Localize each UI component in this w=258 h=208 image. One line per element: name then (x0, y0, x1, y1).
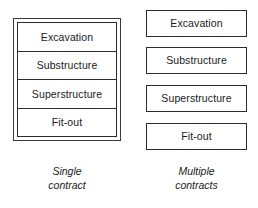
phase-label: Superstructure (32, 89, 102, 100)
phase-label: Fit-out (52, 117, 82, 128)
multiple-contracts-group: Excavation Substructure Superstructure F… (146, 10, 247, 151)
caption-line-1: Multiple (146, 164, 247, 178)
single-contract-caption: Single contract (13, 164, 121, 192)
phase-cell-excavation: Excavation (18, 23, 116, 52)
phase-box-fit-out: Fit-out (146, 123, 247, 150)
caption-line-2: contract (13, 178, 121, 192)
phase-label: Superstructure (161, 93, 231, 104)
phase-label: Excavation (41, 32, 93, 43)
phase-box-substructure: Substructure (146, 47, 247, 74)
phase-cell-substructure: Substructure (18, 52, 116, 81)
phase-label: Excavation (170, 18, 222, 29)
phase-box-superstructure: Superstructure (146, 85, 247, 112)
caption-line-2: contracts (146, 178, 247, 192)
phase-cell-fit-out: Fit-out (18, 109, 116, 138)
phase-box-excavation: Excavation (146, 10, 247, 37)
multiple-contracts-caption: Multiple contracts (146, 164, 247, 192)
single-contract-group: Excavation Substructure Superstructure F… (13, 18, 121, 141)
phase-label: Fit-out (181, 131, 211, 142)
phase-label: Substructure (37, 60, 98, 71)
contract-procurement-diagram: Excavation Substructure Superstructure F… (0, 0, 258, 208)
phase-cell-superstructure: Superstructure (18, 80, 116, 109)
caption-line-1: Single (13, 164, 121, 178)
phase-label: Substructure (166, 55, 227, 66)
single-contract-phase-stack: Excavation Substructure Superstructure F… (17, 22, 117, 137)
